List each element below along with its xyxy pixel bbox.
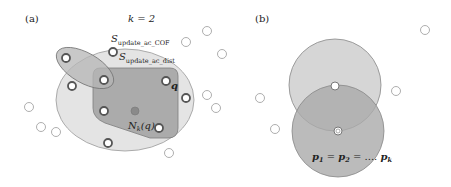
- center-point: [131, 107, 139, 115]
- panel-a-label: (a): [25, 13, 39, 24]
- diagram-canvas: (a) k = 2 Supdate_ac_COF Supdate_ac_dist…: [0, 0, 451, 187]
- panel-b: (b) p1 = p2 = .... pk: [255, 13, 430, 177]
- k-label: k = 2: [128, 13, 155, 24]
- cof-label: Supdate_ac_COF: [111, 33, 170, 47]
- panel-a: (a) k = 2 Supdate_ac_COF Supdate_ac_dist…: [25, 13, 227, 158]
- point-top: [331, 82, 339, 90]
- point-bottom-inner: [336, 129, 340, 133]
- panel-b-label: (b): [255, 13, 269, 24]
- diagram: (a) k = 2 Supdate_ac_COF Supdate_ac_dist…: [0, 0, 451, 187]
- q-label: q: [171, 80, 178, 91]
